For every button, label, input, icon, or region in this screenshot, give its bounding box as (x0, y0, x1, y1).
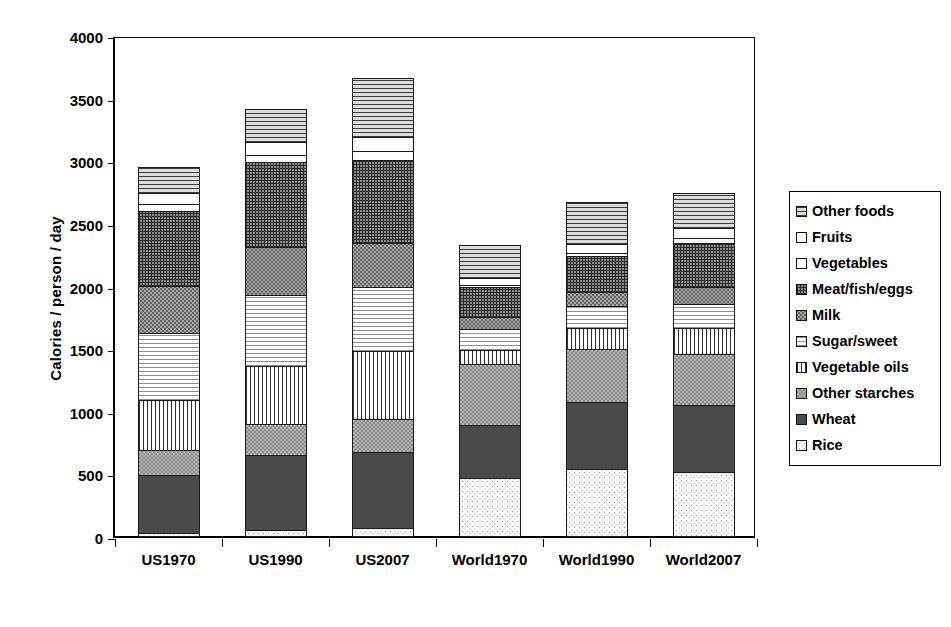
stacked-bar (673, 193, 735, 536)
bar-segment (673, 287, 735, 305)
stacked-bar (566, 202, 628, 536)
bar-segment (245, 247, 307, 296)
legend-item-label: Other foods (812, 204, 894, 219)
bar-segment (566, 328, 628, 350)
y-axis-tick-mark (108, 476, 115, 477)
bar-segment (459, 478, 521, 537)
bar-segment (245, 366, 307, 425)
bar-segment (566, 292, 628, 307)
y-axis-tick-label: 1000 (55, 405, 103, 422)
y-axis-tick-label: 4000 (55, 29, 103, 46)
bar-segment (138, 533, 200, 537)
bar-segment (352, 287, 414, 352)
legend-swatch-icon (796, 336, 807, 347)
chart-legend: Other foodsFruitsVegetablesMeat/fish/egg… (789, 191, 941, 466)
y-axis-tick-mark (108, 226, 115, 227)
legend-item-label: Rice (812, 438, 843, 453)
bar-segment (566, 469, 628, 537)
x-axis-tick-mark (436, 539, 437, 547)
bar-segment (352, 78, 414, 139)
bar-segment (245, 162, 307, 248)
bar-segment (138, 333, 200, 401)
y-axis-title: Calories / person / day (47, 149, 64, 449)
bar-segment (566, 256, 628, 293)
y-axis-tick-label: 2000 (55, 280, 103, 297)
bar-segment (138, 286, 200, 334)
bar-segment (673, 472, 735, 537)
y-axis-tick-mark (108, 289, 115, 290)
y-axis-tick-mark (108, 38, 115, 39)
legend-swatch-icon (796, 206, 807, 217)
bar-segment (352, 351, 414, 421)
legend-swatch-icon (796, 232, 807, 243)
bar-segment (352, 452, 414, 529)
x-axis-tick-mark (543, 539, 544, 547)
y-axis-tick-label: 500 (55, 467, 103, 484)
bar-segment (138, 400, 200, 451)
legend-item-label: Vegetable oils (812, 360, 909, 375)
legend-item: Milk (796, 302, 935, 328)
y-axis-tick-mark (108, 351, 115, 352)
stacked-bar (459, 245, 521, 536)
bar-segment (245, 455, 307, 530)
legend-item: Other foods (796, 198, 935, 224)
bar-segment (138, 167, 200, 194)
y-axis-tick-mark (108, 414, 115, 415)
bar-segment (459, 287, 521, 318)
bar-segment (673, 304, 735, 328)
bar-segment (138, 475, 200, 534)
y-axis-tick-label: 0 (55, 530, 103, 547)
legend-item: Meat/fish/eggs (796, 276, 935, 302)
bar-segment (245, 109, 307, 143)
legend-item: Vegetable oils (796, 354, 935, 380)
y-axis-tick-mark (108, 101, 115, 102)
y-axis-tick-label: 3000 (55, 154, 103, 171)
legend-swatch-icon (796, 388, 807, 399)
y-axis-tick-label: 2500 (55, 217, 103, 234)
bar-segment (459, 350, 521, 364)
legend-item-label: Other starches (812, 386, 914, 401)
legend-item: Wheat (796, 406, 935, 432)
stacked-bar (138, 167, 200, 536)
legend-item-label: Wheat (812, 412, 856, 427)
bar-segment (566, 306, 628, 330)
bar-segment (352, 419, 414, 452)
legend-item: Other starches (796, 380, 935, 406)
legend-item: Sugar/sweet (796, 328, 935, 354)
x-axis-tick-mark (650, 539, 651, 547)
bar-segment (566, 202, 628, 245)
legend-swatch-icon (796, 310, 807, 321)
legend-item-label: Vegetables (812, 256, 888, 271)
legend-item: Vegetables (796, 250, 935, 276)
legend-item-label: Sugar/sweet (812, 334, 897, 349)
bar-segment (566, 402, 628, 470)
stacked-bar (245, 109, 307, 536)
legend-swatch-icon (796, 440, 807, 451)
bar-segment (352, 243, 414, 287)
legend-item-label: Meat/fish/eggs (812, 282, 913, 297)
bar-segment (673, 193, 735, 229)
legend-item: Rice (796, 432, 935, 458)
bar-segment (138, 450, 200, 476)
legend-item-label: Fruits (812, 230, 852, 245)
x-axis-tick-label: World2007 (634, 551, 774, 568)
bar-segment (459, 425, 521, 479)
x-axis-tick-mark (115, 539, 116, 547)
bar-segment (673, 243, 735, 288)
legend-swatch-icon (796, 258, 807, 269)
bar-segment (459, 245, 521, 278)
plot-area: 40003500300025002000150010005000US1970US… (113, 37, 755, 538)
bar-segment (673, 354, 735, 406)
x-axis-tick-mark (222, 539, 223, 547)
legend-swatch-icon (796, 414, 807, 425)
legend-item: Fruits (796, 224, 935, 250)
stacked-bar (352, 78, 414, 536)
bar-segment (245, 530, 307, 538)
bar-segment (673, 328, 735, 355)
legend-swatch-icon (796, 362, 807, 373)
bar-segment (459, 364, 521, 427)
y-axis-tick-label: 1500 (55, 342, 103, 359)
y-axis-tick-mark (108, 163, 115, 164)
bar-segment (566, 349, 628, 402)
bar-segment (352, 528, 414, 537)
